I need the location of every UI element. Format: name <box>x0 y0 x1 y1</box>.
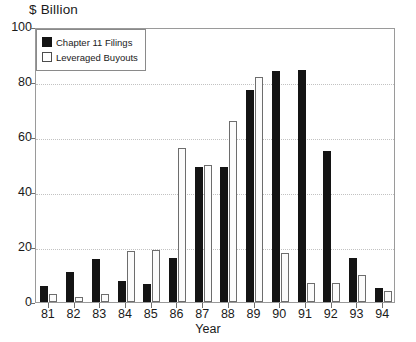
x-axis-tick-mark <box>331 303 332 308</box>
chart-legend: Chapter 11 Filings Leveraged Buyouts <box>36 29 146 71</box>
gridline <box>36 249 394 250</box>
bar-chapter-11-filings-88 <box>220 167 228 302</box>
x-axis-tick-mark <box>48 303 49 308</box>
bar-chapter-11-filings-81 <box>40 286 48 303</box>
bar-chapter-11-filings-87 <box>195 167 203 302</box>
bar-leveraged-buyouts-84 <box>127 251 135 302</box>
x-axis-tick-mark <box>382 303 383 308</box>
x-axis-tick-mark <box>356 303 357 308</box>
bar-chart-figure: $ Billion 020406080100 81828384858687888… <box>0 0 416 342</box>
legend-entry-chapter-11: Chapter 11 Filings <box>42 35 140 49</box>
gridline <box>36 84 394 85</box>
bar-leveraged-buyouts-81 <box>49 294 57 302</box>
bar-leveraged-buyouts-90 <box>281 253 289 303</box>
legend-swatch-filled-square-icon <box>42 37 52 47</box>
x-axis-tick-mark <box>228 303 229 308</box>
legend-label: Leveraged Buyouts <box>56 52 138 63</box>
x-axis-tick-mark <box>202 303 203 308</box>
bar-chapter-11-filings-90 <box>272 71 280 302</box>
x-axis-title: Year <box>0 322 416 336</box>
legend-label: Chapter 11 Filings <box>56 37 132 48</box>
gridline <box>36 139 394 140</box>
bar-leveraged-buyouts-85 <box>152 250 160 302</box>
y-axis-tick-label: 80 <box>0 75 32 89</box>
bar-leveraged-buyouts-94 <box>384 291 392 302</box>
x-axis-tick-mark <box>125 303 126 308</box>
bar-chapter-11-filings-91 <box>298 70 306 302</box>
chart-title: $ Billion <box>29 2 78 17</box>
bar-chapter-11-filings-94 <box>375 288 383 302</box>
bar-leveraged-buyouts-86 <box>178 148 186 302</box>
y-axis-tick-label: 40 <box>0 185 32 199</box>
x-axis-tick-mark <box>176 303 177 308</box>
bar-chapter-11-filings-92 <box>323 151 331 302</box>
bar-leveraged-buyouts-91 <box>307 283 315 302</box>
y-axis-tick-label: 100 <box>0 20 32 34</box>
bar-chapter-11-filings-89 <box>246 90 254 302</box>
bar-leveraged-buyouts-92 <box>332 283 340 302</box>
bar-chapter-11-filings-84 <box>118 281 126 302</box>
bar-leveraged-buyouts-88 <box>229 121 237 303</box>
bar-chapter-11-filings-86 <box>169 258 177 302</box>
bar-leveraged-buyouts-83 <box>101 294 109 302</box>
gridline <box>36 194 394 195</box>
x-axis-tick-mark <box>151 303 152 308</box>
bar-chapter-11-filings-83 <box>92 259 100 302</box>
bar-leveraged-buyouts-82 <box>75 297 83 303</box>
x-axis-tick-mark <box>254 303 255 308</box>
legend-entry-leveraged-buyouts: Leveraged Buyouts <box>42 50 140 64</box>
y-axis-tick-mark <box>30 28 35 29</box>
legend-swatch-open-square-icon <box>42 52 52 62</box>
x-axis-tick-mark <box>74 303 75 308</box>
y-axis-tick-label: 60 <box>0 130 32 144</box>
y-axis-tick-mark <box>30 248 35 249</box>
y-axis-tick-mark <box>30 83 35 84</box>
bar-leveraged-buyouts-93 <box>358 275 366 303</box>
y-axis-tick-label: 20 <box>0 240 32 254</box>
x-axis-tick-mark <box>279 303 280 308</box>
bar-leveraged-buyouts-89 <box>255 77 263 303</box>
bar-chapter-11-filings-93 <box>349 258 357 302</box>
y-axis-tick-mark <box>30 303 35 304</box>
bar-chapter-11-filings-82 <box>66 272 74 302</box>
bar-leveraged-buyouts-87 <box>204 165 212 303</box>
x-axis-tick-mark <box>305 303 306 308</box>
x-axis-tick-mark <box>99 303 100 308</box>
x-axis-tick-label: 94 <box>367 307 397 321</box>
y-axis-tick-mark <box>30 193 35 194</box>
y-axis-tick-mark <box>30 138 35 139</box>
y-axis-tick-label: 0 <box>0 295 32 309</box>
bar-chapter-11-filings-85 <box>143 284 151 302</box>
